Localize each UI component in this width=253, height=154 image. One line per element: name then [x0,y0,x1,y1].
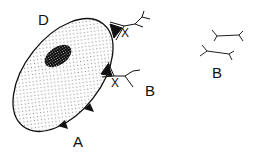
label-junction-upper: X [121,27,129,39]
junction-upper [110,11,150,40]
detached-process [200,30,243,60]
label-detached-process: B [212,65,222,80]
label-junction-lower: X [111,77,119,89]
label-attachment: A [73,134,83,149]
junction-lower [101,62,140,87]
label-process: B [145,83,155,98]
diagram-canvas: D X X B A B [0,0,253,154]
label-cell: D [38,12,49,27]
